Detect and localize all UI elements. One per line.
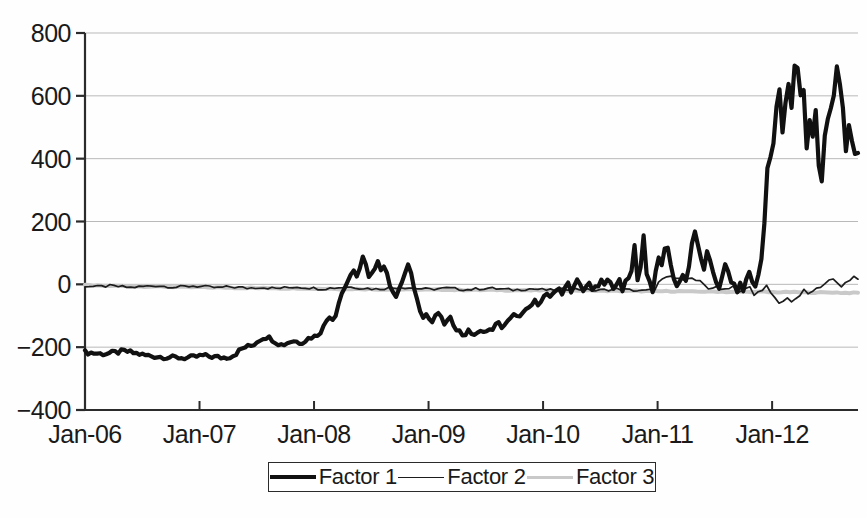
x-axis-tick-label: Jan-12 <box>735 420 808 449</box>
y-axis-tick-label: 800 <box>31 19 71 48</box>
y-axis-tick-label: 600 <box>31 81 71 110</box>
legend-entry-factor-1[interactable]: Factor 1 <box>270 464 397 490</box>
legend-entry-factor-2[interactable]: Factor 2 <box>398 464 525 490</box>
legend-swatch-factor-2-icon <box>398 477 444 478</box>
chart-legend: Factor 1 Factor 2 Factor 3 <box>268 462 656 492</box>
y-axis-tick-label: 400 <box>31 144 71 173</box>
series-line-factor-1 <box>85 66 858 360</box>
x-axis-tick-label: Jan-06 <box>48 420 121 449</box>
y-axis-tick-label: 0 <box>58 270 71 299</box>
chart-figure: 8006004002000−200−400 Jan-06Jan-07Jan-08… <box>0 0 867 518</box>
x-axis-tick-label: Jan-08 <box>277 420 350 449</box>
legend-label-factor-1: Factor 1 <box>319 464 397 490</box>
x-axis-tick-label: Jan-11 <box>622 420 694 449</box>
x-axis-tick-label: Jan-09 <box>392 420 465 449</box>
legend-swatch-factor-1-icon <box>270 475 316 479</box>
legend-label-factor-2: Factor 2 <box>447 464 525 490</box>
x-axis-ticks-group <box>200 401 773 410</box>
legend-entry-factor-3[interactable]: Factor 3 <box>527 464 654 490</box>
x-axis-tick-label: Jan-07 <box>163 420 236 449</box>
x-axis-tick-label: Jan-10 <box>506 420 579 449</box>
legend-label-factor-3: Factor 3 <box>576 464 654 490</box>
y-axis-tick-label: 200 <box>31 207 71 236</box>
legend-swatch-factor-3-icon <box>527 476 573 479</box>
y-axis-tick-label: −200 <box>17 333 71 362</box>
